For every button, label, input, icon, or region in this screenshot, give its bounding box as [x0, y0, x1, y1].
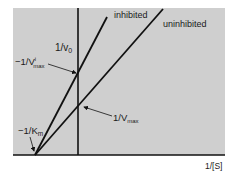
inhibited-label: inhibited [114, 10, 148, 20]
x-axis-label: 1/[S] [205, 161, 222, 171]
lineweaver-burk-plot: 1/v0 −1/Vimax 1/Vmax −1/Km inhibited uni… [0, 0, 239, 174]
plot-area [13, 8, 225, 155]
uninhibited-label: uninhibited [163, 19, 207, 29]
